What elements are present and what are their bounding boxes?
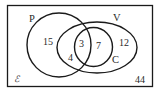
region-p-only-count: 15 (43, 36, 53, 47)
region-p-v-c-count: 3 (79, 38, 84, 49)
set-v-label: V (113, 12, 121, 23)
outside-count: 44 (135, 74, 145, 85)
venn-diagram: P V C 15 4 3 7 12 ℰ 44 (0, 0, 159, 93)
universal-set-symbol: ℰ (14, 74, 21, 84)
set-p-label: P (29, 13, 35, 24)
region-p-v-not-c-count: 4 (68, 52, 73, 63)
set-c-label: C (112, 54, 119, 65)
region-v-only-count: 12 (119, 37, 129, 48)
region-v-c-not-p-count: 7 (96, 40, 101, 51)
